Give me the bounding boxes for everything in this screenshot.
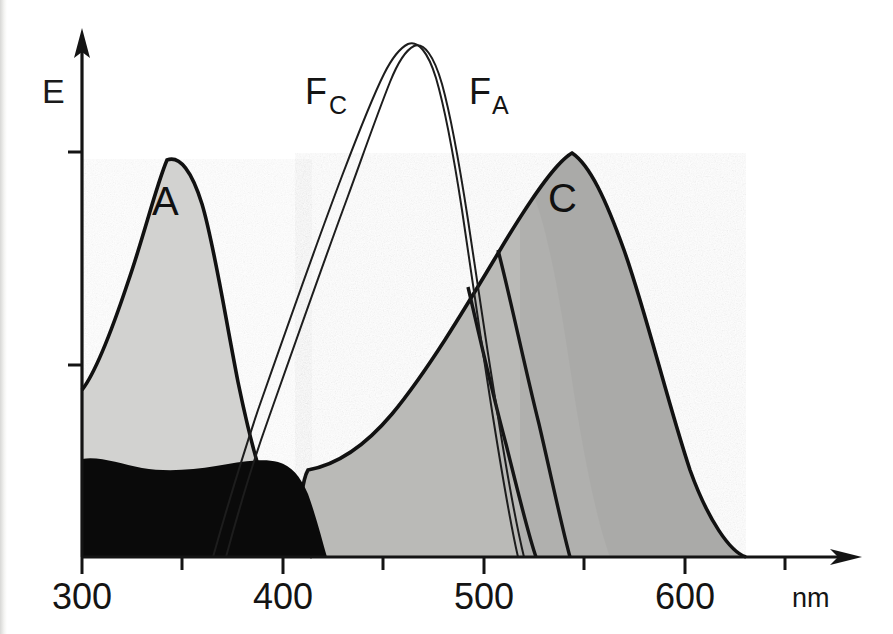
spectra-figure: E A C F C F A 300 400 500 600 nm: [0, 0, 893, 634]
plot-canvas: E A C F C F A 300 400 500 600 nm: [0, 0, 893, 634]
curve-label-fa-base: F: [469, 71, 491, 112]
curve-label-fa-sub: A: [492, 91, 509, 119]
x-tick-label-300: 300: [52, 576, 112, 617]
x-tick-label-600: 600: [655, 576, 715, 617]
x-axis-unit-label: nm: [792, 583, 830, 613]
curve-label-fc-sub: C: [329, 91, 347, 119]
band-label-c: C: [548, 176, 577, 220]
y-axis-label: E: [42, 72, 65, 110]
page-edge-shadow: [0, 0, 7, 634]
dark-baseline-area: [82, 458, 327, 557]
band-label-a: A: [152, 179, 179, 223]
x-tick-label-500: 500: [454, 576, 514, 617]
curve-label-fc-base: F: [305, 71, 327, 112]
x-tick-label-400: 400: [253, 576, 313, 617]
band-c-area: [295, 140, 746, 557]
curve-label-fc: F C: [305, 71, 347, 119]
curve-label-fa: F A: [469, 71, 509, 119]
